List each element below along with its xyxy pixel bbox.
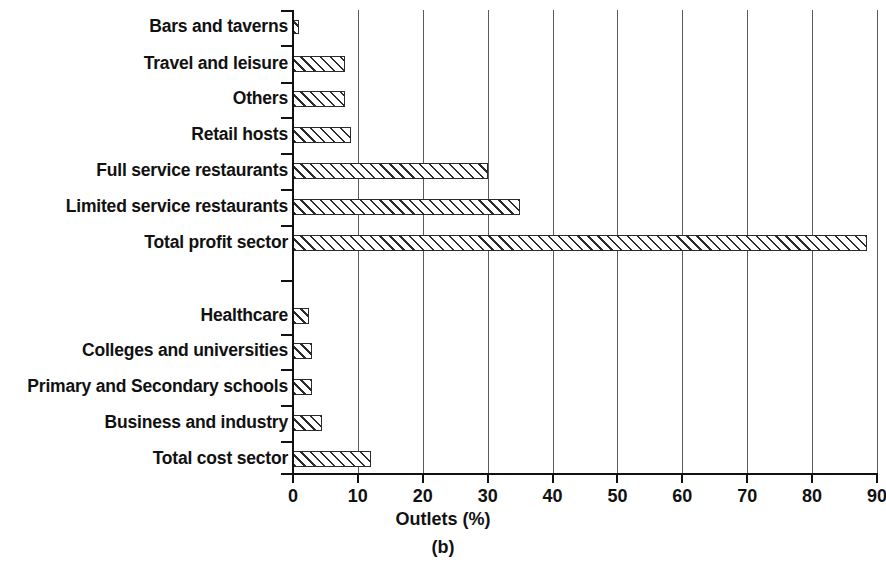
bar (293, 451, 371, 467)
category-label: Colleges and universities (82, 342, 288, 360)
x-axis-tick-0 (292, 473, 294, 483)
x-axis-tick-50 (616, 473, 618, 483)
x-axis-title: Outlets (%) (0, 510, 886, 528)
plot-area (293, 10, 877, 473)
category-label: Retail hosts (191, 126, 288, 144)
category-label: Primary and Secondary schools (27, 378, 288, 396)
gridline-90 (877, 10, 878, 473)
bar-chart-figure: Bars and tavernsTravel and leisureOthers… (0, 0, 886, 565)
x-axis-tick-label: 10 (348, 487, 368, 505)
category-label: Full service restaurants (96, 162, 288, 180)
x-axis-tick-label: 20 (413, 487, 433, 505)
y-axis-tick (281, 82, 292, 84)
category-label: Healthcare (201, 307, 289, 325)
y-axis-tick (281, 334, 292, 336)
category-axis-labels: Bars and tavernsTravel and leisureOthers… (0, 0, 288, 565)
y-axis-tick (281, 405, 292, 407)
category-label: Bars and taverns (149, 18, 288, 36)
y-axis-tick (281, 189, 292, 191)
bar (293, 415, 322, 431)
bar (293, 308, 309, 324)
x-axis-tick-label: 30 (478, 487, 498, 505)
category-label: Limited service restaurants (66, 198, 288, 216)
x-axis-tick-10 (357, 473, 359, 483)
x-axis-tick-label: 40 (543, 487, 563, 505)
y-axis-line (292, 10, 294, 474)
figure-caption: (b) (0, 538, 886, 556)
bar (293, 56, 345, 72)
category-label: Total profit sector (144, 234, 288, 252)
x-axis-tick-90 (876, 473, 878, 483)
y-axis-tick (281, 117, 292, 119)
x-axis-tick-label: 0 (288, 487, 298, 505)
x-axis-tick-label: 80 (802, 487, 822, 505)
y-axis-tick (281, 10, 292, 12)
x-axis-tick-20 (422, 473, 424, 483)
x-axis-tick-60 (681, 473, 683, 483)
y-axis-tick (281, 441, 292, 443)
x-axis-tick-label: 60 (672, 487, 692, 505)
x-axis-tick-label: 70 (737, 487, 757, 505)
bar (293, 235, 867, 251)
bar (293, 163, 488, 179)
x-axis-tick-40 (552, 473, 554, 483)
y-axis-tick (281, 280, 292, 282)
bar (293, 127, 351, 143)
x-axis-tick-label: 90 (867, 487, 886, 505)
category-label: Total cost sector (153, 450, 288, 468)
x-axis-line (293, 473, 877, 475)
y-axis-tick (281, 225, 292, 227)
y-axis-tick (281, 369, 292, 371)
category-label: Travel and leisure (144, 55, 288, 73)
bar (293, 343, 312, 359)
y-axis-tick (281, 45, 292, 47)
category-label: Business and industry (105, 414, 288, 432)
x-axis-tick-30 (487, 473, 489, 483)
bar (293, 379, 312, 395)
y-axis-tick (281, 153, 292, 155)
y-axis-tick (281, 473, 292, 475)
x-axis-tick-70 (746, 473, 748, 483)
bar (293, 199, 520, 215)
category-label: Others (233, 90, 288, 108)
bar (293, 91, 345, 107)
x-axis-tick-label: 50 (607, 487, 627, 505)
x-axis-tick-80 (811, 473, 813, 483)
